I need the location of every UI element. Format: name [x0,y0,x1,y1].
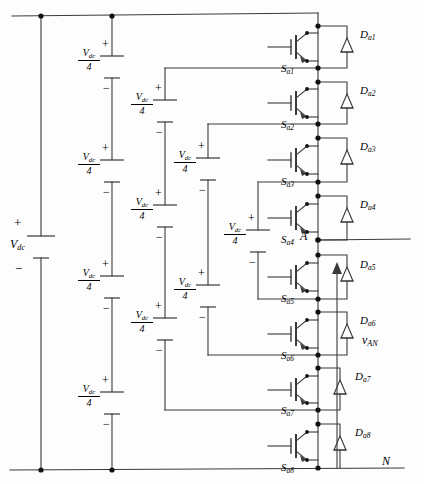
switch-label-Sa4: Sa4 [281,233,294,247]
sa2-collector-slant [296,89,307,98]
diode-label-Da3: Da3 [360,140,375,154]
cap-minus-s3-1: − [199,184,206,196]
sa6-collector-slant [296,320,307,329]
cap-label-s1-4: Vdc 4 [78,384,100,408]
cap-plus-s4-1: + [248,212,255,224]
main-source-minus: − [15,262,22,275]
da6-top-lead [318,312,347,324]
switch-label-Sa8: Sa8 [281,461,294,475]
diode-label-Da7: Da7 [355,370,370,384]
sa1-collector-slant [296,33,307,42]
cap-label-s1-1: Vdc 4 [78,48,100,72]
cap-plus-s1-4: + [102,374,109,386]
da5-bottom-lead [318,281,347,299]
da1-bottom-lead [318,52,347,68]
dot-node-A [315,237,321,243]
da2-bottom-lead [318,108,347,124]
diode-label-Da5: Da5 [360,258,375,272]
circuit-wiring [0,0,424,484]
switch-label-Sa5: Sa5 [281,292,294,306]
da5-top-lead [318,255,347,267]
da3-top-lead [318,138,347,150]
cap-label-s3-2: Vdc 4 [174,277,196,301]
node-label-N: N [382,455,390,467]
dot-top-s1 [109,13,114,18]
da2-top-lead [318,82,347,94]
sa7-collector-slant [296,376,307,385]
cap-plus-s3-1: + [198,140,205,152]
cap-label-s1-3: Vdc 4 [78,268,100,292]
switch-label-Sa7: Sa7 [281,404,294,418]
da1-triangle [341,38,353,52]
cap-minus-s1-2: − [103,186,110,198]
circuit-diagram: + Vdc − Vdc 4 + − Vdc 4 + − Vdc 4 + − Vd… [0,0,424,484]
dot-top-left [38,13,43,18]
cap-plus-s2-3: + [155,300,162,312]
output-voltage-label: vAN [362,333,378,348]
cap-plus-s1-1: + [102,38,109,50]
cap-minus-s3-2: − [199,311,206,323]
diode-label-Da4: Da4 [360,198,375,212]
da4-bottom-lead [318,222,347,240]
cap-minus-s1-4: − [103,418,110,430]
diode-triangles [334,38,353,450]
cap-label-s2-1: Vdc 4 [131,92,153,116]
cap-plus-s3-2: + [198,267,205,279]
sa4-collector-slant [296,204,307,213]
da2-triangle [341,94,353,108]
main-source-plus: + [14,216,21,229]
cap-label-s3-1: Vdc 4 [174,150,196,174]
cap-label-s2-2: Vdc 4 [131,197,153,221]
da6-bottom-lead [318,338,347,355]
dot-bot-left [38,467,43,472]
diode-label-Da6: Da6 [360,314,375,328]
van-arrowhead [332,262,342,274]
da4-triangle [341,208,353,222]
cap-plus-s2-2: + [155,187,162,199]
cap-minus-s1-1: − [103,82,110,94]
diode-label-Da2: Da2 [360,84,375,98]
cap-plus-s2-1: + [155,82,162,94]
main-source-label: Vdc [10,238,25,252]
sa8-collector-slant [296,432,307,441]
cap-minus-s2-3: − [156,344,163,356]
switch-label-Sa3: Sa3 [281,175,294,189]
cap-plus-s1-2: + [102,142,109,154]
da5-triangle [341,267,353,281]
cap-minus-s2-1: − [156,126,163,138]
cap-label-s1-2: Vdc 4 [78,152,100,176]
switch-label-Sa6: Sa6 [281,349,294,363]
cap-minus-s1-3: − [103,302,110,314]
cap-minus-s4-1: − [249,256,256,268]
bottom-rail [10,468,404,470]
cap-plus-s1-3: + [102,258,109,270]
top-rail [12,13,318,16]
diode-label-Da1: Da1 [360,28,375,42]
da3-bottom-lead [318,164,347,182]
da6-triangle [341,324,353,338]
dot-bot-s1 [109,467,114,472]
cap-label-s2-3: Vdc 4 [131,310,153,334]
switch-label-Sa2: Sa2 [281,118,294,132]
da3-triangle [341,150,353,164]
sa5-collector-slant [296,263,307,272]
dot-bot-rail [315,465,320,470]
cap-minus-s2-2: − [156,231,163,243]
da7-triangle [334,380,346,394]
node-label-A: A [300,230,307,242]
cap-label-s4-1: Vdc 4 [224,222,246,246]
switch-label-Sa1: Sa1 [281,62,294,76]
da8-triangle [334,436,346,450]
diode-label-Da8: Da8 [355,426,370,440]
da1-top-lead [318,26,347,38]
sa3-collector-slant [296,146,307,155]
output-line-A [318,239,410,240]
da4-top-lead [318,196,347,208]
